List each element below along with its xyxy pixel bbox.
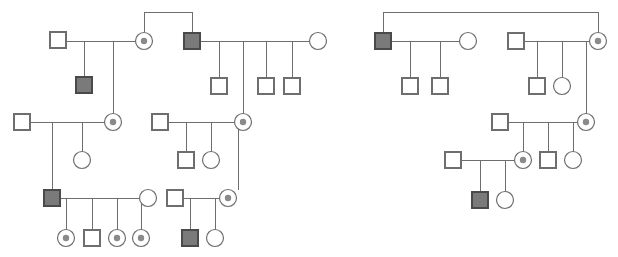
symbol-female-unaffected[interactable] [310, 33, 327, 50]
pedigree-chart-canvas [0, 0, 618, 257]
symbol-male-unaffected[interactable] [178, 152, 194, 168]
symbol-female-carrier[interactable] [136, 33, 153, 50]
symbol-male-unaffected[interactable] [258, 78, 274, 94]
symbol-male-unaffected[interactable] [211, 78, 227, 94]
symbol-male-unaffected[interactable] [508, 33, 524, 49]
symbol-female-unaffected[interactable] [554, 78, 571, 95]
symbol-female-unaffected[interactable] [74, 152, 91, 169]
symbol-female-carrier[interactable] [578, 114, 595, 131]
diagram-background [0, 0, 618, 257]
symbol-male-affected[interactable] [184, 33, 200, 49]
symbol-male-unaffected[interactable] [14, 114, 30, 130]
symbol-male-unaffected[interactable] [50, 32, 66, 48]
symbol-male-affected[interactable] [182, 230, 198, 246]
symbol-female-carrier[interactable] [58, 230, 75, 247]
symbol-female-unaffected[interactable] [565, 152, 582, 169]
symbol-female-carrier[interactable] [133, 230, 150, 247]
symbol-female-carrier[interactable] [220, 190, 237, 207]
symbol-male-affected[interactable] [472, 192, 488, 208]
symbol-male-unaffected[interactable] [445, 152, 461, 168]
symbol-female-carrier[interactable] [235, 114, 252, 131]
symbol-female-unaffected[interactable] [460, 33, 477, 50]
symbol-female-carrier[interactable] [105, 114, 122, 131]
symbol-female-carrier[interactable] [590, 33, 607, 50]
symbol-male-unaffected[interactable] [540, 152, 556, 168]
symbol-male-affected[interactable] [375, 33, 391, 49]
symbol-female-carrier[interactable] [109, 230, 126, 247]
symbol-male-unaffected[interactable] [167, 190, 183, 206]
symbol-male-unaffected[interactable] [402, 78, 418, 94]
symbol-male-unaffected[interactable] [84, 230, 100, 246]
symbol-female-unaffected[interactable] [140, 190, 157, 207]
symbol-female-carrier[interactable] [515, 152, 532, 169]
symbol-male-affected[interactable] [76, 77, 92, 93]
symbol-male-unaffected[interactable] [432, 78, 448, 94]
symbol-male-unaffected[interactable] [284, 78, 300, 94]
pedigree-diagram [0, 0, 618, 257]
symbol-male-unaffected[interactable] [152, 114, 168, 130]
symbol-female-unaffected[interactable] [203, 152, 220, 169]
symbol-male-affected[interactable] [44, 190, 60, 206]
symbol-male-unaffected[interactable] [529, 78, 545, 94]
symbol-female-unaffected[interactable] [497, 192, 514, 209]
symbol-female-unaffected[interactable] [207, 230, 224, 247]
symbol-male-unaffected[interactable] [492, 114, 508, 130]
